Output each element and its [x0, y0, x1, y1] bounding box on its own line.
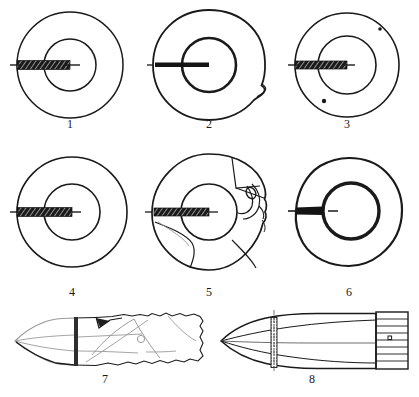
- figure-label-8: 8: [300, 372, 324, 386]
- figure-label-2: 2: [197, 117, 221, 131]
- figure-4-section-bar: [17, 208, 72, 217]
- figure-7-body-lower-edge-a: [75, 365, 96, 366]
- figure-3-perforation-upper: [378, 27, 382, 31]
- figure-7-body-upper-edge-a: [75, 318, 96, 319]
- plate-drawing-canvas: [0, 0, 419, 397]
- figure-label-7: 7: [93, 372, 117, 386]
- figure-6-section-bar: [296, 207, 323, 216]
- figure-1-section-bar: [17, 61, 70, 70]
- figure-label-1: 1: [58, 117, 82, 131]
- figure-2-section-bar: [155, 63, 209, 68]
- figure-3-section-bar: [295, 61, 347, 69]
- figure-label-3: 3: [335, 117, 359, 131]
- figure-label-5: 5: [197, 285, 221, 299]
- figure-label-4: 4: [60, 285, 84, 299]
- figure-7-band: [74, 317, 78, 366]
- figure-3-perforation-lower: [322, 99, 326, 103]
- figure-5-section-bar: [154, 208, 209, 216]
- plate-background: [0, 0, 419, 397]
- illustration-plate: 1 2 3 4 5 6 7 8: [0, 0, 419, 397]
- figure-label-6: 6: [337, 285, 361, 299]
